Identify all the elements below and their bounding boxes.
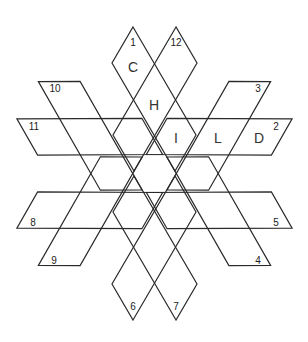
strip-number-12: 12 <box>170 37 182 48</box>
cell-letter: I <box>174 130 178 146</box>
strip-number-10: 10 <box>49 83 61 94</box>
strip-number-5: 5 <box>273 217 279 228</box>
strip-number-9: 9 <box>51 255 57 266</box>
strip-number-1: 1 <box>130 37 136 48</box>
cell-letter: C <box>128 59 138 75</box>
cell-letter: L <box>214 130 222 146</box>
puzzle-diagram: 112325476981110CHILD <box>0 0 308 342</box>
strip-number-11: 11 <box>29 121 40 132</box>
strip-number-6: 6 <box>130 301 136 312</box>
strip-outline <box>17 192 163 229</box>
strip-number-7: 7 <box>173 301 179 312</box>
strip-number-2: 2 <box>273 121 279 132</box>
cell-letter: D <box>254 130 264 146</box>
strip-number-4: 4 <box>255 255 261 266</box>
strip-outline <box>113 176 197 320</box>
cell-letter: H <box>149 97 159 113</box>
strip-outline <box>112 176 196 320</box>
strip-number-8: 8 <box>30 217 36 228</box>
hexagram-strips: 112325476981110CHILD <box>0 0 308 342</box>
strip-outline <box>146 192 292 229</box>
strip-number-3: 3 <box>255 83 261 94</box>
